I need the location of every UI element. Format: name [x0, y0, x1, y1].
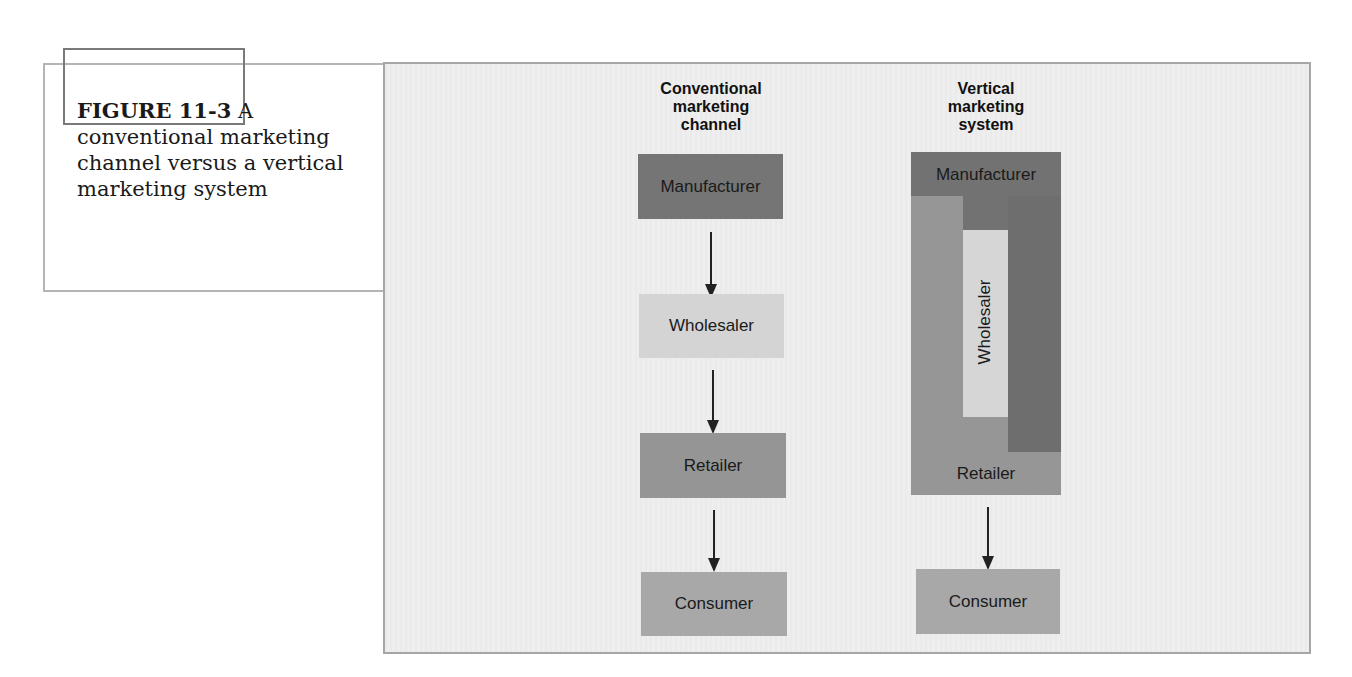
vertical-title: Vertical marketing system: [912, 80, 1060, 134]
vms-retailer-label: Retailer: [911, 464, 1061, 484]
arrow-down-icon: [987, 507, 989, 568]
conventional-title: Conventional marketing channel: [638, 80, 784, 134]
conventional-retailer-box: Retailer: [640, 433, 786, 498]
box-label: Wholesaler: [669, 316, 754, 336]
box-label: Manufacturer: [660, 177, 760, 197]
conventional-title-line: marketing: [638, 98, 784, 116]
conventional-manufacturer-box: Manufacturer: [638, 154, 783, 219]
arrow-down-icon: [712, 370, 714, 432]
arrow-down-icon: [710, 232, 712, 296]
vms-consumer-box: Consumer: [916, 569, 1060, 634]
vertical-title-line: marketing: [912, 98, 1060, 116]
diagram-panel: [383, 62, 1311, 654]
conventional-consumer-box: Consumer: [641, 572, 787, 636]
vertical-title-line: system: [912, 116, 1060, 134]
box-label: Consumer: [949, 592, 1027, 612]
box-label: Retailer: [684, 456, 743, 476]
vms-wholesaler-label: Wholesaler: [975, 272, 995, 372]
conventional-title-line: channel: [638, 116, 784, 134]
arrow-down-icon: [713, 510, 715, 570]
vms-manufacturer-label: Manufacturer: [911, 165, 1061, 185]
box-label: Consumer: [675, 594, 753, 614]
conventional-title-line: Conventional: [638, 80, 784, 98]
vertical-title-line: Vertical: [912, 80, 1060, 98]
conventional-wholesaler-box: Wholesaler: [639, 294, 784, 358]
figure-caption: FIGURE 11-3 A conventional marketing cha…: [77, 98, 377, 202]
figure-number: FIGURE 11-3: [77, 98, 231, 123]
vms-manufacturer-column: [1008, 196, 1061, 452]
